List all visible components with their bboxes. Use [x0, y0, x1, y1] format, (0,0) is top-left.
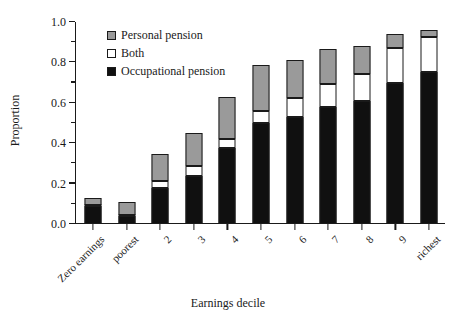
- y-axis-minor-tick: [71, 162, 75, 163]
- bar[interactable]: [219, 97, 236, 224]
- x-axis-tick-label: 7: [329, 233, 341, 245]
- bar[interactable]: [253, 65, 270, 224]
- bar[interactable]: [152, 154, 169, 224]
- bar-segment-occ: [185, 176, 202, 224]
- legend-item[interactable]: Both: [107, 45, 225, 61]
- bar-segment-pers: [286, 60, 303, 97]
- x-axis-tick-label: Zero earnings: [55, 233, 106, 284]
- x-axis-tick: [294, 224, 295, 230]
- bar-segment-pers: [219, 97, 236, 139]
- bar-segment-both: [185, 166, 202, 175]
- bar-segment-occ: [353, 101, 370, 224]
- y-axis-tick: [69, 21, 75, 22]
- chart-legend: Personal pensionBothOccupational pension: [107, 27, 225, 81]
- bar[interactable]: [286, 60, 303, 224]
- bar-segment-occ: [85, 206, 102, 224]
- x-axis-tick-label: 5: [262, 233, 274, 245]
- legend-item[interactable]: Personal pension: [107, 27, 225, 43]
- bar[interactable]: [118, 202, 135, 224]
- legend-label: Occupational pension: [121, 64, 225, 79]
- x-axis-tick-label: poorest: [109, 233, 140, 264]
- bar-segment-both: [320, 84, 337, 107]
- x-axis-title: Earnings decile: [0, 296, 456, 311]
- y-axis-tick: [69, 182, 75, 183]
- bar-segment-pers: [387, 34, 404, 48]
- x-axis-tick: [227, 224, 228, 230]
- bar[interactable]: [353, 46, 370, 224]
- y-axis-tick: [69, 61, 75, 62]
- y-axis-tick-label: 0.8: [51, 55, 66, 70]
- bar-segment-both: [387, 48, 404, 82]
- legend-label: Both: [121, 46, 144, 61]
- bar-segment-pers: [253, 65, 270, 110]
- bar[interactable]: [85, 198, 102, 224]
- bar[interactable]: [185, 133, 202, 224]
- x-axis-tick-label: 4: [229, 233, 241, 245]
- bar[interactable]: [320, 49, 337, 224]
- x-axis-tick-label: 3: [195, 233, 207, 245]
- y-axis-minor-tick: [71, 203, 75, 204]
- x-axis-tick: [260, 224, 261, 230]
- y-axis-minor-tick: [71, 122, 75, 123]
- bar-segment-occ: [421, 72, 438, 225]
- legend-swatch-icon: [107, 67, 116, 76]
- x-axis-tick: [328, 224, 329, 230]
- bar-segment-occ: [118, 216, 135, 224]
- x-axis-tick: [428, 224, 429, 230]
- x-axis-tick: [92, 224, 93, 230]
- bar-segment-both: [353, 74, 370, 101]
- x-axis-tick-label: 2: [161, 233, 173, 245]
- bar-segment-occ: [152, 188, 169, 224]
- bar-segment-pers: [85, 198, 102, 205]
- bar-segment-both: [421, 37, 438, 71]
- bar-segment-occ: [320, 107, 337, 224]
- x-axis-tick: [160, 224, 161, 230]
- x-axis-tick: [193, 224, 194, 230]
- legend-label: Personal pension: [121, 28, 203, 43]
- y-axis-line: [75, 22, 76, 224]
- x-axis-tick-label: 8: [363, 233, 375, 245]
- bar-segment-pers: [185, 133, 202, 166]
- y-axis-minor-tick: [71, 41, 75, 42]
- bar[interactable]: [421, 30, 438, 224]
- x-axis-tick: [361, 224, 362, 230]
- y-axis-tick: [69, 102, 75, 103]
- bar-segment-both: [286, 98, 303, 117]
- bar-segment-occ: [253, 123, 270, 224]
- bar-segment-both: [253, 111, 270, 123]
- y-axis-tick-label: 0.0: [51, 217, 66, 232]
- legend-item[interactable]: Occupational pension: [107, 63, 225, 79]
- y-axis-tick: [69, 142, 75, 143]
- y-axis-tick-label: 0.4: [51, 136, 66, 151]
- y-axis-title-text: Proportion: [9, 94, 24, 145]
- bar-segment-both: [152, 181, 169, 188]
- bar[interactable]: [387, 34, 404, 224]
- bar-segment-both: [219, 139, 236, 148]
- x-axis-tick-label: 6: [296, 233, 308, 245]
- y-axis-tick: [69, 223, 75, 224]
- bar-segment-occ: [387, 83, 404, 224]
- y-axis-tick-label: 0.2: [51, 176, 66, 191]
- bar-segment-pers: [421, 30, 438, 37]
- x-axis-title-text: Earnings decile: [191, 296, 265, 310]
- bar-segment-pers: [353, 46, 370, 73]
- bar-segment-pers: [320, 49, 337, 83]
- bar-segment-pers: [152, 154, 169, 180]
- y-axis-tick-label: 0.6: [51, 95, 66, 110]
- x-axis-tick: [395, 224, 396, 230]
- y-axis-tick-label: 1.0: [51, 15, 66, 30]
- y-axis-title: Proportion: [2, 0, 30, 240]
- legend-swatch-icon: [107, 31, 116, 40]
- legend-swatch-icon: [107, 49, 116, 58]
- bar-segment-occ: [286, 117, 303, 224]
- y-axis-minor-tick: [71, 81, 75, 82]
- x-axis-tick: [126, 224, 127, 230]
- chart-figure: Proportion 0.00.20.40.60.81.0 Zero earni…: [0, 0, 456, 331]
- x-axis-tick-label: richest: [413, 233, 442, 262]
- bar-segment-occ: [219, 148, 236, 224]
- bar-segment-pers: [118, 202, 135, 215]
- x-axis-tick-label: 9: [397, 233, 409, 245]
